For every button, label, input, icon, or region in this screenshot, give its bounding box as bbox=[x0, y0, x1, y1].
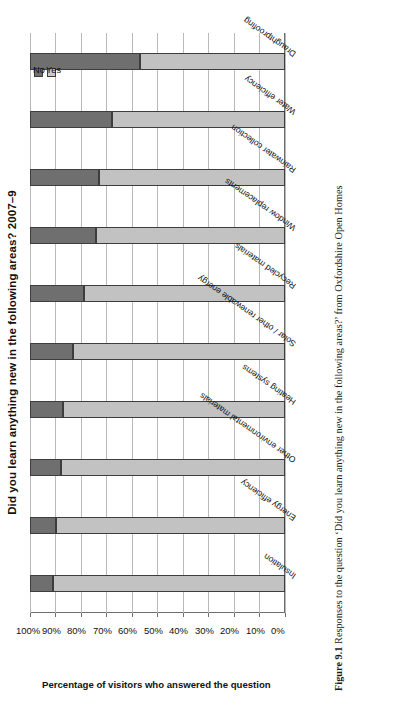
bar-segment-no bbox=[30, 576, 53, 593]
y-tick-label: 100% bbox=[16, 625, 40, 636]
y-tick-mark bbox=[157, 613, 158, 617]
legend-item: Yes bbox=[46, 50, 56, 77]
y-tick-label: 90% bbox=[42, 625, 61, 636]
y-tick-mark bbox=[81, 613, 82, 617]
plot-area bbox=[30, 33, 285, 613]
chart-title: Did you learn anything new in the follow… bbox=[6, 0, 18, 705]
y-tick-mark bbox=[234, 613, 235, 617]
chart-legend: NoYes bbox=[33, 50, 59, 77]
bar-segment-yes bbox=[56, 518, 286, 535]
bar-segment-yes bbox=[73, 344, 285, 361]
legend-label: Yes bbox=[46, 65, 61, 75]
y-tick-mark bbox=[285, 613, 286, 617]
y-tick-mark bbox=[183, 613, 184, 617]
bar-segment-no bbox=[30, 228, 96, 245]
y-tick-mark bbox=[30, 613, 31, 617]
figure-area: Did you learn anything new in the follow… bbox=[0, 0, 360, 705]
bar-segment-yes bbox=[96, 228, 285, 245]
bar-segment-yes bbox=[61, 460, 285, 477]
y-tick-label: 10% bbox=[246, 625, 265, 636]
bar-segment-no bbox=[30, 460, 61, 477]
bar-segment-no bbox=[30, 518, 56, 535]
y-tick-label: 30% bbox=[195, 625, 214, 636]
bar-segment-no bbox=[30, 286, 84, 303]
bar-segment-yes bbox=[53, 576, 285, 593]
legend-item: No bbox=[33, 50, 43, 77]
y-tick-label: 40% bbox=[169, 625, 188, 636]
caption-figure-number: Figure 9.1 bbox=[333, 647, 344, 691]
bar-segment-no bbox=[30, 170, 99, 187]
y-tick-mark bbox=[132, 613, 133, 617]
y-tick-mark bbox=[55, 613, 56, 617]
y-tick-label: 0% bbox=[271, 625, 285, 636]
y-tick-label: 60% bbox=[118, 625, 137, 636]
plot-canvas bbox=[30, 33, 285, 613]
bar-segment-yes bbox=[99, 170, 285, 187]
bar-segment-no bbox=[30, 344, 73, 361]
y-tick-mark bbox=[208, 613, 209, 617]
y-tick-label: 50% bbox=[144, 625, 163, 636]
bar-segment-no bbox=[30, 112, 112, 129]
bar-segment-yes bbox=[140, 54, 285, 71]
y-tick-label: 80% bbox=[67, 625, 86, 636]
legend-label: No bbox=[33, 65, 45, 75]
figure-caption: Figure 9.1 Responses to the question ‘Di… bbox=[332, 15, 346, 691]
rotated-page-stage: Did you learn anything new in the follow… bbox=[0, 0, 403, 705]
caption-body: Responses to the question ‘Did you learn… bbox=[333, 185, 344, 644]
bar-segment-yes bbox=[112, 112, 285, 129]
bar-segment-no bbox=[30, 402, 63, 419]
y-tick-mark bbox=[106, 613, 107, 617]
bar-segment-yes bbox=[63, 402, 285, 419]
y-axis-title: Percentage of visitors who answered the … bbox=[42, 679, 271, 690]
bar-segment-yes bbox=[84, 286, 285, 303]
y-tick-mark bbox=[259, 613, 260, 617]
y-tick-label: 20% bbox=[220, 625, 239, 636]
y-tick-label: 70% bbox=[93, 625, 112, 636]
